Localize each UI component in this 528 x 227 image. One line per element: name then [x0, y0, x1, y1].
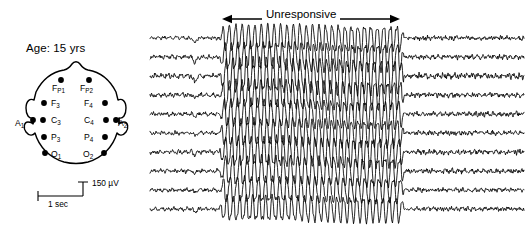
electrode-label-o2: O2: [83, 149, 94, 160]
eeg-figure: Age: 15 yrs FP1FP2F3F4C3C4P3P4O1O2 A1A2 …: [0, 0, 528, 227]
electrode-label-fp1: FP1: [52, 83, 65, 94]
electrode-group: FP1FP2F3F4C3C4P3P4O1O2: [40, 77, 109, 160]
eeg-trace-panel: [148, 0, 528, 227]
electrode-label-f3: F3: [51, 98, 60, 109]
amplitude-scale-label: 150 µV: [92, 178, 119, 188]
head-montage-panel: Age: 15 yrs FP1FP2F3F4C3C4P3P4O1O2 A1A2 …: [0, 0, 150, 227]
electrode-label-c4: C4: [84, 115, 94, 126]
electrode-label-a1: A1: [15, 118, 25, 129]
electrode-dot-fp2: [86, 77, 92, 83]
eeg-trace-channel-1: [150, 23, 524, 53]
electrode-dot-fp1: [58, 77, 64, 83]
electrode-label-p4: P4: [84, 132, 94, 143]
eeg-trace-group: [150, 23, 524, 224]
eeg-trace-channel-6: [150, 117, 524, 149]
electrode-label-c3: C3: [51, 115, 61, 126]
electrode-label-f4: F4: [84, 98, 93, 109]
electrode-label-fp2: FP2: [80, 83, 93, 94]
electrode-dot-o1: [42, 150, 48, 156]
electrode-dot-p4: [102, 134, 108, 140]
head-outline: [24, 62, 127, 164]
time-scale-label: 1 sec: [48, 199, 68, 209]
electrode-label-o1: O1: [51, 149, 62, 160]
head-diagram: FP1FP2F3F4C3C4P3P4O1O2 A1A2: [14, 58, 138, 170]
eeg-trace-channel-3: [150, 56, 524, 96]
electrode-dot-p3: [41, 134, 47, 140]
age-label: Age: 15 yrs: [26, 42, 136, 54]
electrode-label-a2: A2: [118, 118, 128, 129]
scale-bar: 150 µV 1 sec: [30, 174, 140, 210]
electrode-dot-a1: [30, 117, 36, 123]
electrode-dot-f4: [102, 100, 108, 106]
electrode-dot-c4: [103, 117, 109, 123]
electrode-label-p3: P3: [51, 132, 61, 143]
eeg-trace-channel-10: [150, 194, 524, 224]
electrode-dot-c3: [40, 117, 46, 123]
electrode-dot-f3: [41, 100, 47, 106]
eeg-trace-channel-7: [150, 135, 524, 170]
electrode-dot-o2: [101, 150, 107, 156]
amplitude-scale-line: [78, 182, 88, 196]
